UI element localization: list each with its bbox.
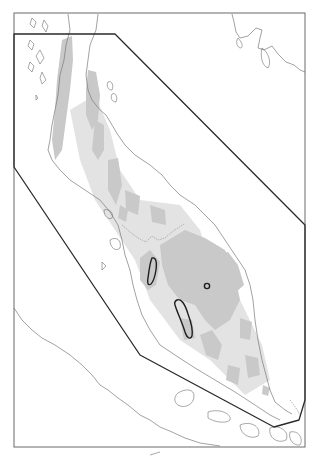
map-canvas — [0, 0, 320, 460]
map-figure: Malay Peninsula — [0, 0, 320, 460]
